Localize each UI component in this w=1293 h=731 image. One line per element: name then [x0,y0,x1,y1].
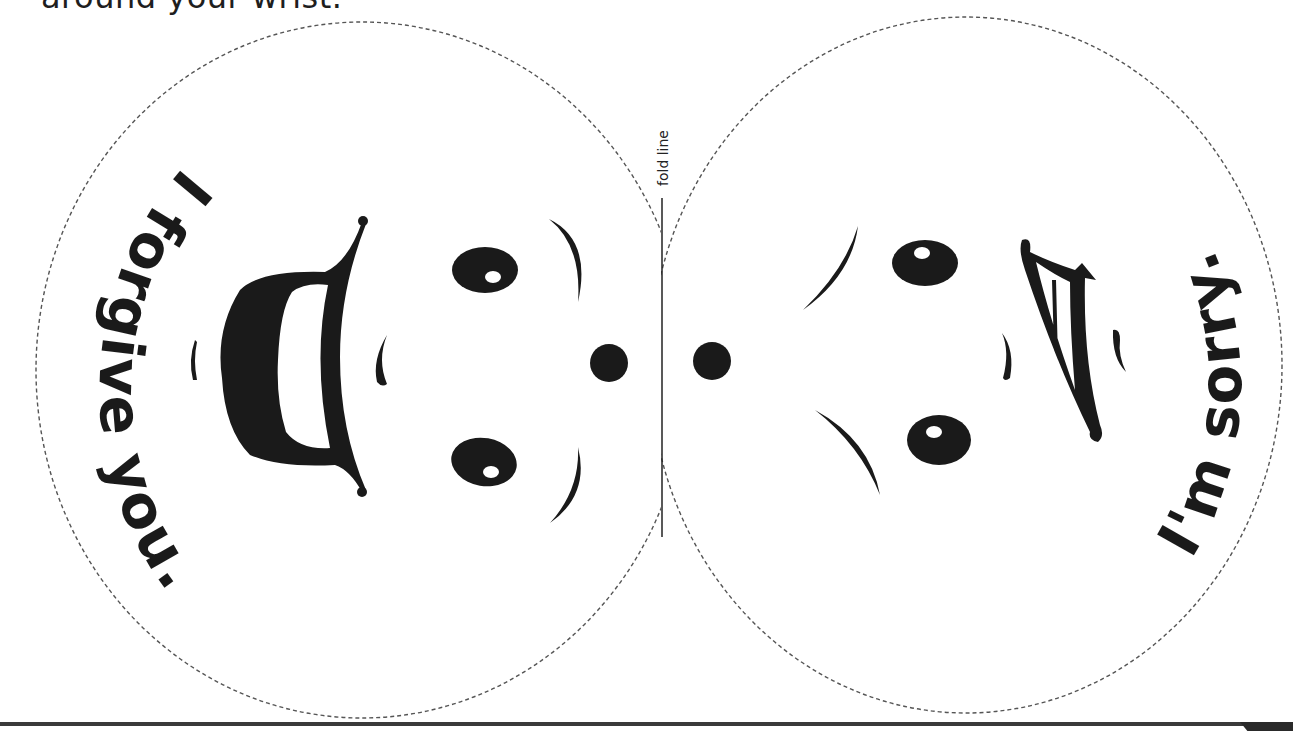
forgive-message: I forgive you. [85,158,225,603]
printable-page: around your wrist. fold line [0,0,1293,731]
eyebrow-icon [550,447,581,523]
mouth-icon [220,222,366,492]
nose-icon [693,342,731,380]
cheek-icon [1002,333,1011,380]
mouth-icon [1021,239,1103,442]
cheek-icon [1113,330,1126,372]
page-edge-bar [0,722,1293,726]
right-eye-icon [447,433,520,492]
right-eye-icon [907,415,971,465]
sad-face [693,226,1126,495]
eyebrow-icon [815,410,880,495]
left-eye-icon [452,247,518,293]
left-eye-icon [892,240,958,286]
nose-icon [590,344,628,382]
page-edge-tab [1240,722,1293,731]
eyebrow-icon [549,219,581,302]
sorry-message: I'm sorry. [1144,242,1254,567]
cheek-icon [191,340,197,380]
fold-line-label: fold line [655,130,671,186]
eyebrow-icon [803,226,858,310]
cheek-icon [376,335,387,386]
happy-face [191,216,628,523]
cutout-artwork: fold line [0,0,1293,731]
